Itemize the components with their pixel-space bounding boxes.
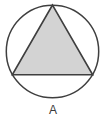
figure-circle-with-inscribed-triangle: A <box>0 0 105 117</box>
figure-label: A <box>49 103 57 117</box>
figure-canvas: A <box>0 0 105 117</box>
